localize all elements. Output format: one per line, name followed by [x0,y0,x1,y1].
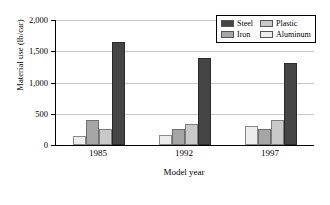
bar-1992-steel [198,58,211,146]
x-axis-title: Model year [55,167,313,177]
y-axis-title: Material use (lb/car) [15,0,25,120]
bar-1985-plastic [99,129,112,145]
bar-1992-iron [172,129,185,145]
aluminum-swatch-icon [260,31,273,38]
bar-1997-steel [284,63,297,146]
legend-entry-steel: Steel [221,19,253,28]
ytick-label-0: 0 [44,140,48,150]
ytick-label-2000: 2,000 [29,15,48,25]
ytick-mark-0 [51,145,56,146]
ytick-label-1000: 1,000 [29,78,48,88]
bar-1997-aluminum [245,126,258,145]
ytick-label-1500: 1,500 [29,46,48,56]
x-axis-tick-labels: 1985 1992 1997 [55,148,313,158]
legend-entry-plastic: Plastic [260,19,311,28]
bar-1997-plastic [271,120,284,145]
xtick-label-1997: 1997 [235,148,305,158]
xtick-label-1985: 1985 [63,148,133,158]
bar-1985-iron [86,120,99,145]
legend-entry-aluminum: Aluminum [260,30,311,39]
legend-entry-iron: Iron [221,30,253,39]
bar-group-1985 [73,20,125,145]
bar-1985-steel [112,42,125,145]
steel-swatch-icon [221,20,234,27]
chart-legend: Steel Plastic Iron Aluminum [216,15,316,43]
legend-label-plastic: Plastic [276,19,297,28]
ytick-label-500: 500 [35,109,48,119]
bar-1997-iron [258,129,271,145]
legend-label-iron: Iron [237,30,250,39]
xtick-label-1992: 1992 [149,148,219,158]
bar-1992-plastic [185,124,198,145]
legend-label-aluminum: Aluminum [276,30,311,39]
bar-1992-aluminum [159,135,172,145]
legend-label-steel: Steel [237,19,253,28]
iron-swatch-icon [221,31,234,38]
plastic-swatch-icon [260,20,273,27]
bar-group-1992 [159,20,211,145]
bar-chart-figure: Material use (lb/car) 2,000 1,500 1,000 … [0,0,330,205]
bar-1985-aluminum [73,136,86,145]
